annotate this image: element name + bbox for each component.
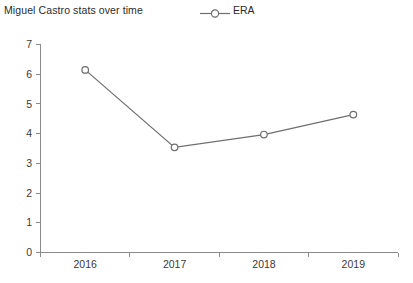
legend-item-era[interactable]: ERA bbox=[200, 4, 255, 16]
x-tick-label: 2019 bbox=[342, 258, 366, 270]
data-point[interactable] bbox=[350, 111, 357, 118]
chart-title: Miguel Castro stats over time bbox=[4, 4, 143, 16]
y-axis-tick-labels: 7 6 5 4 3 2 1 0 bbox=[26, 38, 32, 258]
y-tick-label: 1 bbox=[26, 216, 32, 228]
x-axis-ticks bbox=[41, 253, 399, 258]
y-tick-label: 6 bbox=[26, 68, 32, 80]
y-tick-label: 0 bbox=[26, 246, 32, 258]
series-markers-era bbox=[82, 67, 357, 151]
x-tick-label: 2018 bbox=[252, 258, 276, 270]
data-point[interactable] bbox=[261, 131, 268, 138]
data-point[interactable] bbox=[171, 144, 178, 151]
y-tick-label: 5 bbox=[26, 98, 32, 110]
series-line-era bbox=[85, 70, 353, 147]
legend-label-era: ERA bbox=[233, 4, 255, 16]
chart-container: Miguel Castro stats over time ERA bbox=[0, 0, 413, 283]
chart-legend: ERA bbox=[200, 3, 255, 17]
legend-line-marker-icon bbox=[200, 5, 230, 16]
line-chart-svg: 7 6 5 4 3 2 1 0 2016 2017 2018 bbox=[0, 30, 413, 283]
y-tick-label: 7 bbox=[26, 38, 32, 50]
y-axis-ticks bbox=[36, 45, 41, 253]
y-tick-label: 2 bbox=[26, 187, 32, 199]
x-axis-tick-labels: 2016 2017 2018 2019 bbox=[74, 258, 366, 270]
x-tick-label: 2016 bbox=[74, 258, 98, 270]
plot-area: 7 6 5 4 3 2 1 0 2016 2017 2018 bbox=[0, 30, 413, 283]
chart-header: Miguel Castro stats over time ERA bbox=[0, 0, 413, 30]
y-tick-label: 4 bbox=[26, 127, 32, 139]
data-point[interactable] bbox=[82, 67, 89, 74]
x-tick-label: 2017 bbox=[163, 258, 187, 270]
y-tick-label: 3 bbox=[26, 157, 32, 169]
